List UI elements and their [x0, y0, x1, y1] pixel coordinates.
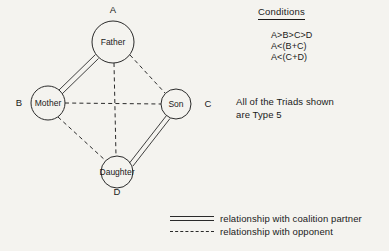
triads-note-line-2: are Type 5	[236, 108, 334, 121]
edge-son-daughter	[130, 116, 171, 167]
legend: relationship with coalition partner rela…	[168, 212, 389, 238]
node-father-label: Father	[101, 37, 126, 47]
edge-father-daughter	[114, 63, 116, 156]
edge-mother-daughter	[58, 117, 106, 161]
corner-label-b: B	[16, 97, 22, 108]
node-son-label: Son	[168, 99, 183, 109]
node-mother[interactable]: Mother	[31, 86, 65, 120]
legend-label-opponent: relationship with opponent	[216, 226, 333, 237]
corner-label-c: C	[205, 98, 212, 109]
conditions-list: A>B>C>D A<(B+C) A<(C+D)	[271, 30, 312, 64]
node-son[interactable]: Son	[161, 89, 191, 119]
edge-mother-son	[65, 103, 161, 104]
double-solid-line-icon	[168, 212, 216, 225]
node-daughter[interactable]: Daughter	[100, 156, 135, 188]
legend-item-coalition: relationship with coalition partner	[168, 212, 389, 225]
legend-item-opponent: relationship with opponent	[168, 225, 389, 238]
node-mother-label: Mother	[35, 98, 62, 108]
node-daughter-label: Daughter	[100, 167, 135, 177]
legend-label-coalition: relationship with coalition partner	[216, 213, 362, 224]
corner-label-d: D	[114, 186, 121, 197]
triads-note-line-1: All of the Triads shown	[236, 95, 334, 108]
conditions-heading: Conditions	[258, 6, 305, 20]
edge-father-mother	[59, 55, 99, 95]
dashed-line-icon	[168, 225, 216, 238]
condition-line-3: A<(C+D)	[271, 52, 312, 63]
condition-line-1: A>B>C>D	[271, 30, 312, 41]
corner-label-a: A	[110, 4, 117, 15]
figure-root: Father Mother Son Daughter A B C D Condi…	[0, 0, 389, 251]
node-father[interactable]: Father	[92, 21, 134, 63]
triads-note: All of the Triads shown are Type 5	[236, 95, 334, 121]
condition-line-2: A<(B+C)	[271, 41, 312, 52]
edge-father-son	[130, 55, 165, 93]
